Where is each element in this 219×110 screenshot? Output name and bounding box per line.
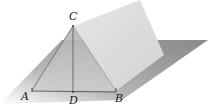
label-B: B [115,93,123,104]
diagram-canvas: C A D B [0,0,219,110]
label-D: D [69,95,78,106]
point-C-mark [72,25,74,27]
label-A: A [21,91,29,102]
label-C: C [69,11,77,22]
folded-plane-figure [0,0,219,110]
point-D-mark [72,91,74,93]
